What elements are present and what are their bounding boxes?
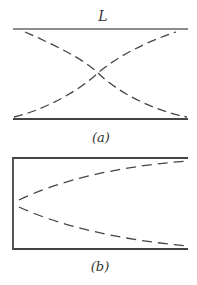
dashed-curve-upper: [19, 161, 188, 200]
dashed-curve-descending: [25, 32, 187, 117]
dashed-curve-lower: [19, 207, 188, 246]
length-label: L: [97, 8, 107, 24]
dashed-curve-ascending: [14, 32, 176, 117]
caption-a: (a): [92, 130, 110, 145]
diagram-canvas: L (a) (b): [0, 0, 197, 285]
closed-end-box: [13, 158, 188, 249]
caption-b: (b): [91, 259, 109, 274]
figure-b: (b): [13, 158, 188, 274]
figure-a: L (a): [13, 8, 188, 145]
